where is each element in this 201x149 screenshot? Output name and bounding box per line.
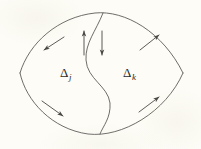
region-label-delta-k-symbol: Δ (123, 65, 131, 80)
arrow-upper-left-down-left (44, 37, 64, 50)
arrow-upper-right-up-right (140, 35, 159, 50)
region-divider-curve (86, 13, 110, 134)
region-label-delta-j-subscript: j (69, 72, 72, 82)
lens-outline (20, 13, 183, 135)
arrow-lower-left-down-right (42, 101, 63, 116)
figure-container: Δj Δk (0, 0, 201, 149)
lens-diagram-canvas (0, 0, 201, 149)
lens-outline-bottom-arc (20, 73, 183, 134)
region-label-delta-j: Δj (60, 66, 71, 82)
region-label-delta-k-subscript: k (132, 72, 136, 82)
region-label-delta-j-symbol: Δ (60, 65, 68, 80)
region-label-delta-k: Δk (123, 66, 136, 82)
lens-outline-top-arc (20, 13, 183, 73)
